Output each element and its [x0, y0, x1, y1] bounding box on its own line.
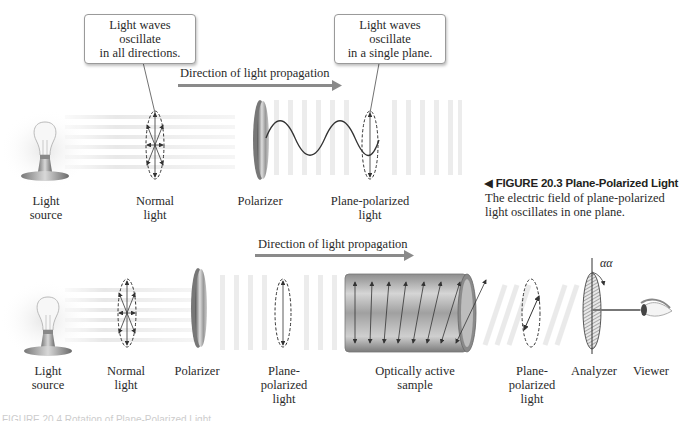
- label-viewer: Viewer: [624, 364, 678, 378]
- callout-all-directions: Light waves oscillate in all directions.: [84, 14, 196, 64]
- analyzer-disk: [583, 258, 640, 354]
- optically-active-sample-tube: [345, 274, 486, 352]
- label-plane-polarized-light-3: Plane- polarized light: [500, 364, 564, 406]
- label-light-source-2: Light source: [22, 364, 74, 392]
- direction-label-top: Direction of light propagation: [180, 66, 330, 81]
- label-polarizer-2: Polarizer: [166, 364, 228, 378]
- figure-caption-title: ◀ FIGURE 20.3 Plane-Polarized Light: [484, 176, 678, 190]
- figure-caption-body: The electric field of plane-polarized li…: [485, 191, 665, 219]
- polarizer-disk: [253, 100, 269, 180]
- label-optically-active-sample: Optically active sample: [360, 364, 470, 392]
- direction-arrow: [178, 80, 342, 91]
- rotated-polarized-diagram: [522, 279, 540, 347]
- wavefronts: [220, 275, 337, 350]
- light-beam: [65, 115, 235, 169]
- bottom-figure: [0, 250, 672, 360]
- callout-single-plane: Light waves oscillate in a single plane.: [334, 14, 446, 64]
- direction-label-bottom: Direction of light propagation: [258, 237, 408, 252]
- plane-polarized-diagram: [275, 279, 291, 347]
- label-analyzer: Analyzer: [566, 364, 622, 378]
- label-normal-light-2: Normal light: [98, 364, 154, 392]
- callout-pointer: [142, 58, 155, 113]
- label-normal-light: Normal light: [128, 194, 182, 222]
- label-plane-polarized-light-2: Plane- polarized light: [252, 364, 316, 406]
- wavefronts: [274, 100, 462, 175]
- clipped-figure-caption: FIGURE 20.4 Rotation of Plane-Polarized …: [2, 414, 211, 421]
- label-plane-polarized-light: Plane-polarized light: [320, 194, 420, 222]
- polarizer-disk: [191, 268, 207, 348]
- label-light-source: Light source: [20, 194, 72, 222]
- eye-icon: [640, 300, 672, 317]
- plane-polarized-diagram: [362, 58, 380, 179]
- angle-label: αα: [600, 256, 613, 271]
- caption-marker-icon: ◀: [484, 177, 493, 189]
- label-polarizer: Polarizer: [230, 194, 290, 208]
- normal-light-diagram: [118, 279, 136, 347]
